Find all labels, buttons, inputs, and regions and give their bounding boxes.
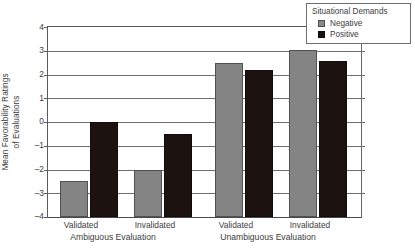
x-group-label-unambiguous: Unambiguous Evaluation <box>188 232 348 242</box>
y-tickmark-neg-2 <box>44 170 48 171</box>
y-axis-title: Mean Favorability Ratings of Evaluations <box>0 27 22 217</box>
y-tickmark-0 <box>44 122 48 123</box>
gray-swatch-icon <box>318 20 325 27</box>
bar-chart-figure: Mean Favorability Ratings of Evaluations… <box>0 0 415 252</box>
x-tick-label-ambiguous-invalidated: Invalidated <box>110 220 200 230</box>
y-tickmark-right-2 <box>361 75 365 76</box>
y-tickmark-right-1 <box>361 98 365 99</box>
x-tick-label-unambiguous-invalidated: Invalidated <box>265 220 355 230</box>
y-tick-label-4: 4 <box>26 23 44 32</box>
y-tickmark-right-0 <box>361 122 365 123</box>
black-swatch-icon <box>318 31 325 38</box>
y-tickmark-right-neg-2 <box>361 170 365 171</box>
y-tickmark-right-3 <box>361 51 365 52</box>
y-tick-label-0: 0 <box>26 117 44 126</box>
bar-ambiguous-validated-positive <box>90 122 118 217</box>
bar-ambiguous-validated-negative <box>60 181 88 217</box>
legend-title: Situational Demands <box>312 7 406 17</box>
plot-area <box>47 27 362 217</box>
y-tickmark-neg-3 <box>44 193 48 194</box>
y-axis-tick-labels: 4 3 2 1 0 –1 –2 –3 –4 <box>24 0 44 252</box>
bar-unambiguous-invalidated-positive <box>319 61 347 217</box>
y-tick-label-neg-2: –2 <box>26 165 44 174</box>
legend: Situational Demands Negative Positive <box>306 3 411 44</box>
y-tick-label-3: 3 <box>26 46 44 55</box>
y-tickmark-3 <box>44 51 48 52</box>
y-tickmark-neg-1 <box>44 146 48 147</box>
y-tick-label-2: 2 <box>26 70 44 79</box>
legend-entry-negative: Negative <box>312 18 406 29</box>
y-axis-title-line-2: of Evaluations <box>11 73 22 170</box>
y-tickmark-2 <box>44 75 48 76</box>
y-axis-title-line-1: Mean Favorability Ratings <box>1 73 12 170</box>
legend-entry-positive: Positive <box>312 29 406 40</box>
bar-ambiguous-invalidated-positive <box>164 134 192 217</box>
legend-label-positive: Positive <box>330 30 359 39</box>
y-tick-label-1: 1 <box>26 94 44 103</box>
y-tickmark-right-neg-1 <box>361 146 365 147</box>
bar-unambiguous-validated-positive <box>245 70 273 217</box>
x-group-label-ambiguous: Ambiguous Evaluation <box>33 232 193 242</box>
legend-label-negative: Negative <box>330 19 362 28</box>
x-axis-line <box>47 217 362 218</box>
bar-ambiguous-invalidated-negative <box>134 170 162 218</box>
y-tickmark-neg-4 <box>44 217 48 218</box>
y-tick-label-neg-3: –3 <box>26 189 44 198</box>
y-tickmark-right-neg-3 <box>361 193 365 194</box>
y-tickmark-4 <box>44 27 48 28</box>
y-tick-label-neg-1: –1 <box>26 141 44 150</box>
bar-unambiguous-validated-negative <box>215 63 243 217</box>
bar-unambiguous-invalidated-negative <box>289 50 317 217</box>
y-tickmark-1 <box>44 98 48 99</box>
